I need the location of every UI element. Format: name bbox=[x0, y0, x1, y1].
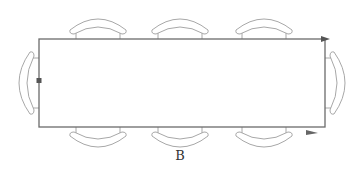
chair-top-3 bbox=[236, 19, 292, 39]
diagram-label: B bbox=[0, 148, 360, 163]
chair-right bbox=[325, 52, 345, 114]
chair-bottom-3 bbox=[236, 127, 292, 147]
square-marker-icon bbox=[37, 78, 42, 83]
arrow-bottom-right-icon bbox=[306, 130, 318, 135]
chair-top-1 bbox=[70, 19, 126, 39]
chair-bottom-1 bbox=[70, 127, 126, 147]
chair-top-2 bbox=[152, 19, 208, 39]
chair-bottom-2 bbox=[152, 127, 208, 147]
table bbox=[39, 39, 325, 127]
chair-left bbox=[19, 52, 39, 114]
